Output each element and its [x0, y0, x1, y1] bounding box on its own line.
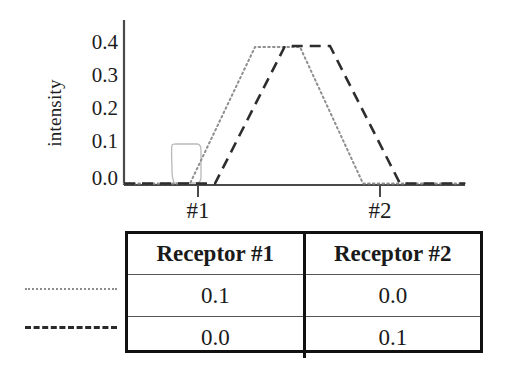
y-tick-label-2: 0.2	[70, 98, 118, 119]
handdrawn-box-artifact	[172, 144, 201, 183]
figure-root: intensity 0.4 0.3 0.2 0.1 0.0 #1 #2 Rece…	[0, 0, 512, 379]
y-tick-labels: 0.4 0.3 0.2 0.1 0.0	[66, 0, 118, 200]
table-cell-r0c0: 0.1	[128, 275, 304, 317]
legend	[0, 225, 125, 355]
table-header-receptor-1: Receptor #1	[128, 234, 304, 275]
x-tick-label-receptor-2: #2	[350, 199, 410, 222]
y-tick-label-1: 0.3	[70, 65, 118, 86]
legend-swatch-dotted	[25, 288, 117, 293]
table-cell-r1c1: 0.1	[304, 317, 480, 359]
table-row-header: Receptor #1 Receptor #2	[128, 234, 480, 275]
y-tick-label-0: 0.4	[70, 32, 118, 53]
table-cell-r1c0: 0.0	[128, 317, 304, 359]
y-tick-label-4: 0.0	[70, 168, 118, 189]
y-tick-label-3: 0.1	[70, 131, 118, 152]
x-tick-label-receptor-1: #1	[168, 199, 228, 222]
table-cell-r0c1: 0.0	[304, 275, 480, 317]
table-row: 0.1 0.0	[128, 275, 480, 317]
receptor-table: Receptor #1 Receptor #2 0.1 0.0 0.0 0.1	[125, 231, 483, 353]
intensity-chart: intensity 0.4 0.3 0.2 0.1 0.0 #1 #2	[0, 0, 512, 225]
series-line-dashed	[124, 46, 465, 184]
table-row: 0.0 0.1	[128, 317, 480, 359]
legend-swatch-dashed	[25, 326, 117, 332]
table-header-receptor-2: Receptor #2	[304, 234, 480, 275]
y-axis-title: intensity	[44, 48, 66, 178]
series-line-dotted	[124, 47, 465, 184]
